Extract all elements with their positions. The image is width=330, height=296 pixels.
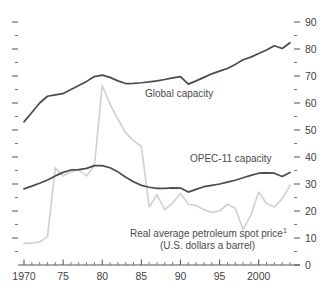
y-axis-label: 30 [305,178,317,190]
x-axis-label: 75 [57,270,69,282]
x-axis [18,260,300,266]
oil-capacity-price-chart: 0102030405060708090 197075808590952000 G… [0,0,330,296]
y-axis-label: 90 [305,16,317,28]
series-lines [24,43,290,244]
x-axis-label: 90 [175,270,187,282]
y-axis-label: 40 [305,151,317,163]
x-axis-label: 1970 [12,270,36,282]
right-axis-labels: 0102030405060708090 [305,16,317,271]
x-axis-labels: 197075808590952000 [12,270,270,282]
y-axis-label: 50 [305,124,317,136]
y-axis-label: 20 [305,205,317,217]
right-axis-ticks [294,22,300,265]
series-line [24,166,290,192]
y-axis-label: 80 [305,43,317,55]
x-axis-label: 80 [96,270,108,282]
annotation-spot-price-line1: Real average petroleum spot price [130,228,283,239]
y-axis-label: 70 [305,70,317,82]
y-axis-label: 10 [305,232,317,244]
left-axis-ticks [12,22,18,252]
x-axis-label: 95 [214,270,226,282]
annotation-global-capacity: Global capacity [145,88,213,100]
annotation-opec-capacity: OPEC-11 capacity [190,153,272,165]
y-axis-label: 0 [305,259,311,271]
footnote-marker: 1 [283,227,287,234]
x-axis-label: 85 [136,270,148,282]
y-axis-label: 60 [305,97,317,109]
series-line [24,43,290,122]
annotation-spot-price-line2: (U.S. dollars a barrel) [130,240,285,252]
annotation-spot-price: Real average petroleum spot price1 (U.S.… [130,225,285,252]
x-axis-label: 2000 [247,270,271,282]
